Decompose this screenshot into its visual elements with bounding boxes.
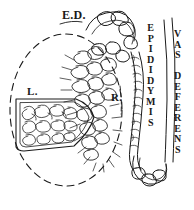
label-vas-deferens: VAS DEFERENS [173, 28, 182, 154]
seminiferous-tubules-icon [22, 105, 77, 146]
label-lobule: L. [27, 85, 38, 97]
figure-canvas: E.D. L. R. EPIDIDYMIS VAS DEFERENS [0, 0, 194, 210]
epididymis-duct-icon [129, 52, 143, 170]
epididymis-tail-icon [132, 156, 167, 186]
label-epididymis: EPIDIDYMIS [146, 22, 155, 127]
efferent-ducts-icon [86, 11, 137, 62]
testis-outline-icon [10, 34, 122, 186]
label-efferent-ducts: E.D. [62, 8, 86, 23]
anatomy-line-drawing [0, 0, 194, 210]
label-rete-testis: R. [111, 91, 122, 103]
